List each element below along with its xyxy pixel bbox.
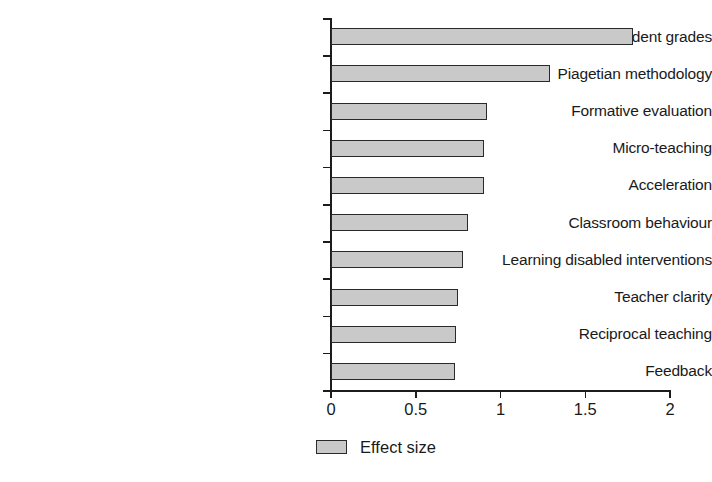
bar-6: [331, 251, 463, 268]
bar-1: [331, 65, 550, 82]
bar-5: [331, 214, 468, 231]
value-tick-label-0: 0: [326, 400, 335, 418]
category-tick-4: [323, 167, 331, 169]
category-tick-9: [323, 353, 331, 355]
value-tick-label-1: 0.5: [404, 400, 427, 418]
category-tick-5: [323, 204, 331, 206]
bar-7: [331, 289, 458, 306]
value-tick-label-3: 1.5: [574, 400, 597, 418]
value-tick-3: [585, 390, 587, 398]
value-tick-0: [330, 390, 332, 398]
category-tick-0: [323, 18, 331, 20]
category-tick-6: [323, 241, 331, 243]
category-tick-7: [323, 278, 331, 280]
category-tick-8: [323, 316, 331, 318]
value-tick-2: [500, 390, 502, 398]
category-tick-1: [323, 55, 331, 57]
category-tick-3: [323, 130, 331, 132]
legend-swatch-effect-size: [316, 440, 347, 454]
chart-legend: Effect size: [0, 438, 712, 456]
value-tick-label-4: 2: [665, 400, 674, 418]
bar-3: [331, 140, 484, 157]
effect-size-bar-chart: Student gradesPiagetian methodologyForma…: [0, 0, 712, 482]
bar-9: [331, 363, 455, 380]
bar-0: [331, 28, 633, 45]
value-tick-1: [415, 390, 417, 398]
category-tick-2: [323, 92, 331, 94]
bar-2: [331, 103, 487, 120]
legend-label-effect-size: Effect size: [360, 438, 436, 456]
value-tick-label-2: 1: [496, 400, 505, 418]
bar-8: [331, 326, 456, 343]
value-tick-4: [669, 390, 671, 398]
bar-4: [331, 177, 484, 194]
